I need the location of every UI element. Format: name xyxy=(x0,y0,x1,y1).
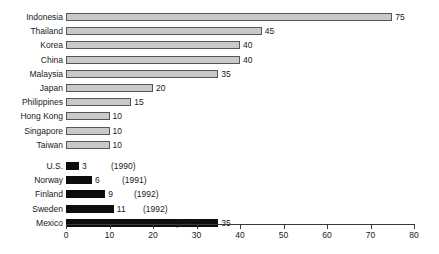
bar xyxy=(66,84,153,92)
bar xyxy=(66,141,110,149)
category-label: Sweden xyxy=(0,203,63,215)
bar-row: Malaysia35 xyxy=(0,68,439,80)
category-label: U.S. xyxy=(0,160,63,172)
bar-value-label: 9 xyxy=(108,188,113,200)
category-label: Philippines xyxy=(0,96,63,108)
bar-value-label: 3 xyxy=(82,160,87,172)
x-tick-label: 60 xyxy=(312,230,342,241)
x-tick xyxy=(240,224,241,229)
x-tick-label: 30 xyxy=(182,230,212,241)
x-tick-label: 80 xyxy=(399,230,429,241)
category-label: Norway xyxy=(0,174,63,186)
bar-value-label: 10 xyxy=(113,139,122,151)
year-annotation: (1991) xyxy=(122,174,147,186)
bar-row: Japan20 xyxy=(0,82,439,94)
bar xyxy=(66,56,240,64)
x-tick xyxy=(197,224,198,229)
bar xyxy=(66,13,392,21)
category-label: Malaysia xyxy=(0,68,63,80)
category-label: China xyxy=(0,54,63,66)
category-label: Taiwan xyxy=(0,139,63,151)
bar-row: Singapore10 xyxy=(0,125,439,137)
bar-row: U.S.3(1990) xyxy=(0,160,439,172)
x-tick-label: 0 xyxy=(51,230,81,241)
bar-row: Norway6(1991) xyxy=(0,174,439,186)
bar-row: Thailand45 xyxy=(0,25,439,37)
bar xyxy=(66,70,218,78)
x-tick-label: 10 xyxy=(95,230,125,241)
x-tick-label: 20 xyxy=(138,230,168,241)
bar-row: Sweden11(1992) xyxy=(0,203,439,215)
category-label: Japan xyxy=(0,82,63,94)
bar-row: Finland9(1992) xyxy=(0,188,439,200)
bar-row: Hong Kong10 xyxy=(0,110,439,122)
x-tick-label: 70 xyxy=(356,230,386,241)
x-tick xyxy=(327,224,328,229)
x-tick xyxy=(153,224,154,229)
bar xyxy=(66,162,79,170)
x-tick-label: 50 xyxy=(269,230,299,241)
bar xyxy=(66,112,110,120)
x-tick xyxy=(110,224,111,229)
bar-row: Philippines15 xyxy=(0,96,439,108)
year-annotation: (1990) xyxy=(111,160,136,172)
bar-value-label: 20 xyxy=(156,82,165,94)
bar-row: Korea40 xyxy=(0,39,439,51)
bar xyxy=(66,127,110,135)
bar-value-label: 45 xyxy=(265,25,274,37)
x-tick xyxy=(66,224,67,229)
category-label: Thailand xyxy=(0,25,63,37)
category-label: Finland xyxy=(0,188,63,200)
bar-chart: Indonesia75Thailand45Korea40China40Malay… xyxy=(0,0,439,254)
bar-value-label: 40 xyxy=(243,54,252,66)
x-tick xyxy=(284,224,285,229)
bar-value-label: 6 xyxy=(95,174,100,186)
category-label: Indonesia xyxy=(0,11,63,23)
bar-value-label: 10 xyxy=(113,125,122,137)
bar-value-label: 40 xyxy=(243,39,252,51)
year-annotation: (1992) xyxy=(134,188,159,200)
year-annotation: (1992) xyxy=(143,203,168,215)
bar xyxy=(66,27,262,35)
bar-value-label: 11 xyxy=(117,203,126,215)
bar-row: China40 xyxy=(0,54,439,66)
x-tick-label: 40 xyxy=(225,230,255,241)
category-label: Mexico xyxy=(0,217,63,229)
bar-value-label: 10 xyxy=(113,110,122,122)
bar-row: Taiwan10 xyxy=(0,139,439,151)
category-label: Korea xyxy=(0,39,63,51)
x-tick xyxy=(414,224,415,229)
bar xyxy=(66,98,131,106)
bar-value-label: 75 xyxy=(395,11,404,23)
category-label: Singapore xyxy=(0,125,63,137)
bar-value-label: 35 xyxy=(221,68,230,80)
bar xyxy=(66,176,92,184)
bar xyxy=(66,41,240,49)
bar-row: Indonesia75 xyxy=(0,11,439,23)
x-tick xyxy=(371,224,372,229)
bar-value-label: 15 xyxy=(134,96,143,108)
bar xyxy=(66,205,114,213)
bar xyxy=(66,190,105,198)
category-label: Hong Kong xyxy=(0,110,63,122)
bar-value-label: 35 xyxy=(221,217,230,229)
